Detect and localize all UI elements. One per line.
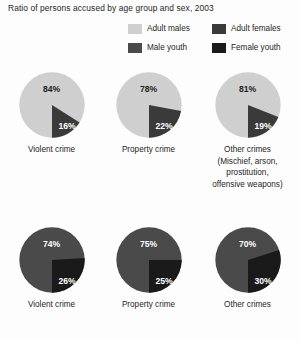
pie-panel: 75% 25% Property crime — [99, 227, 198, 311]
pie-caption-main: Property crime — [122, 145, 175, 154]
pie-chart: 84% 16% — [19, 72, 85, 138]
pie-chart: 74% 26% — [19, 227, 85, 293]
pie-caption: Other crimes (Mischief, arson, prostitut… — [198, 144, 297, 190]
legend-swatch-icon — [128, 43, 142, 53]
pie-panel: 74% 26% Violent crime — [2, 227, 101, 311]
pie-minor-value: 26% — [59, 276, 76, 286]
pie-caption-main: Other crimes — [224, 145, 271, 154]
legend-item-female-youth: Female youth — [212, 43, 296, 53]
pie-panel: 84% 16% Violent crime — [2, 72, 101, 156]
pie-caption-main: Property crime — [122, 300, 175, 309]
legend-swatch-icon — [212, 43, 226, 53]
pie-minor-value: 16% — [59, 121, 76, 131]
pie-caption-extra: (Mischief, arson, — [198, 156, 297, 168]
pie-chart: 75% 25% — [116, 227, 182, 293]
pie-major-value: 70% — [215, 239, 281, 249]
pie-caption: Violent crime — [2, 299, 101, 311]
pie-caption-main: Other crimes — [224, 300, 271, 309]
pie-panel: 78% 22% Property crime — [99, 72, 198, 156]
legend-row: Adult males Adult females — [128, 19, 296, 38]
pie-minor-value: 25% — [156, 276, 173, 286]
legend-label: Male youth — [147, 43, 187, 52]
pie-caption-extra: offensive weapons) — [198, 179, 297, 191]
pie-caption-main: Violent crime — [28, 145, 75, 154]
legend-item-adult-females: Adult females — [212, 24, 296, 34]
pie-caption: Violent crime — [2, 144, 101, 156]
pie-minor-value: 22% — [156, 121, 173, 131]
pie-minor-value: 30% — [255, 276, 272, 286]
legend-item-male-youth: Male youth — [128, 43, 212, 53]
legend-label: Adult males — [147, 24, 190, 33]
chart-title: Ratio of persons accused by age group an… — [8, 3, 214, 13]
legend-row: Male youth Female youth — [128, 38, 296, 57]
pie-minor-value: 19% — [255, 121, 272, 131]
pie-caption: Other crimes — [198, 299, 297, 311]
pie-caption: Property crime — [99, 299, 198, 311]
legend: Adult males Adult females Male youth Fem… — [128, 19, 296, 57]
chart-figure: Ratio of persons accused by age group an… — [0, 0, 299, 341]
pie-major-value: 84% — [19, 84, 85, 94]
legend-item-adult-males: Adult males — [128, 24, 212, 34]
pie-major-value: 78% — [116, 84, 182, 94]
pie-caption-main: Violent crime — [28, 300, 75, 309]
pie-caption-extra: prostitution, — [198, 167, 297, 179]
legend-swatch-icon — [128, 24, 142, 34]
legend-label: Adult females — [231, 24, 281, 33]
pie-chart: 81% 19% — [215, 72, 281, 138]
pie-major-value: 74% — [19, 239, 85, 249]
pie-chart: 70% 30% — [215, 227, 281, 293]
pie-panel: 70% 30% Other crimes — [198, 227, 297, 311]
pie-chart: 78% 22% — [116, 72, 182, 138]
pie-major-value: 81% — [215, 84, 281, 94]
pie-panel: 81% 19% Other crimes (Mischief, arson, p… — [198, 72, 297, 190]
pie-major-value: 75% — [116, 239, 182, 249]
legend-label: Female youth — [231, 43, 281, 52]
legend-swatch-icon — [212, 24, 226, 34]
pie-caption: Property crime — [99, 144, 198, 156]
